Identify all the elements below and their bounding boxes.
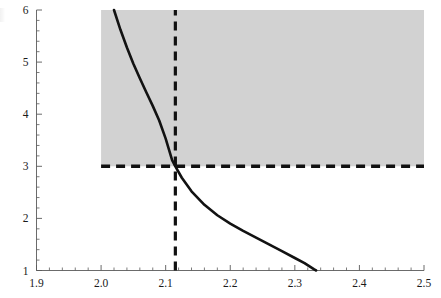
x-axis-major-ticks — [37, 265, 425, 271]
plot-area: 1.92.02.12.22.32.42.5 123456 — [0, 0, 441, 298]
x-tick-label: 2.2 — [223, 277, 238, 289]
y-axis-tick-labels: 123456 — [23, 4, 29, 277]
x-tick-label: 2.3 — [288, 277, 303, 289]
feasible-region-shade — [101, 10, 424, 166]
x-tick-label: 2.0 — [94, 277, 109, 289]
x-axis-tick-labels: 1.92.02.12.22.32.42.5 — [29, 277, 431, 289]
x-tick-label: 1.9 — [29, 277, 44, 289]
y-tick-label: 3 — [23, 160, 29, 172]
y-tick-label: 1 — [23, 265, 29, 277]
chart-figure: 1.92.02.12.22.32.42.5 123456 — [0, 0, 441, 298]
y-tick-label: 6 — [23, 4, 29, 16]
x-tick-label: 2.4 — [352, 277, 367, 289]
shaded-region-group — [101, 10, 424, 166]
y-tick-label: 2 — [23, 212, 29, 224]
x-tick-label: 2.5 — [417, 277, 432, 289]
y-tick-label: 4 — [23, 108, 29, 120]
x-tick-label: 2.1 — [158, 277, 173, 289]
y-axis-major-ticks — [37, 10, 43, 271]
y-tick-label: 5 — [23, 56, 29, 68]
